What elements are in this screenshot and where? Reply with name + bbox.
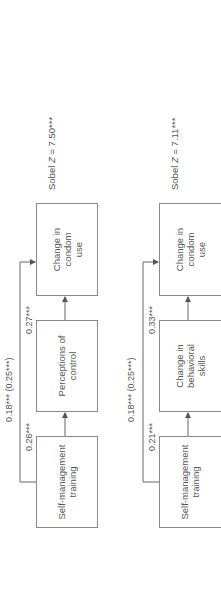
sobel-stat: Z — [169, 157, 180, 163]
panel-2-path-a: 0.21*** — [147, 423, 157, 451]
panel-2-sobel-test: Sobel Z = 7.11*** — [169, 118, 180, 190]
panel-2-predictor-label: Self-management training — [179, 442, 201, 522]
panel-1-path-a: 0.26*** — [24, 423, 34, 451]
panel-1-path-c-prime: 0.18*** (0.25***) — [4, 357, 14, 422]
panel-2-outcome-label: Change in condom use — [174, 225, 207, 275]
sobel-prefix: Sobel — [169, 166, 180, 190]
panel-1-path-b: 0.27*** — [24, 306, 34, 334]
sobel-value: = 7.11*** — [169, 118, 180, 155]
sobel-value: = 7.50*** — [46, 117, 57, 155]
panel-1-outcome-label: Change in condom use — [51, 225, 84, 275]
panel-1-outcome-box: Change in condom use — [36, 203, 98, 296]
panel-2-predictor-box: Self-management training — [159, 436, 221, 528]
panel-1-predictor-box: Self-management training — [36, 436, 98, 528]
panel-2-path-b: 0.33*** — [147, 306, 157, 334]
panel-2-mediator-label: Change in behavioral skills — [174, 338, 207, 394]
panel-2-outcome-box: Change in condom use — [159, 203, 221, 296]
panel-1-mediator-label: Perceptions of control — [56, 334, 78, 398]
panel-1-mediator-box: Perceptions of control — [36, 320, 98, 412]
sobel-prefix: Sobel — [46, 166, 57, 190]
panel-2-path-c-prime: 0.18*** (0.25***) — [126, 357, 136, 422]
panel-1-predictor-label: Self-management training — [56, 442, 78, 522]
sobel-stat: Z — [46, 157, 57, 163]
panel-1-sobel-test: Sobel Z = 7.50*** — [46, 117, 57, 190]
mediation-diagrams: Self-management training Perceptions of … — [0, 0, 221, 604]
panel-2-mediator-box: Change in behavioral skills — [159, 320, 221, 412]
